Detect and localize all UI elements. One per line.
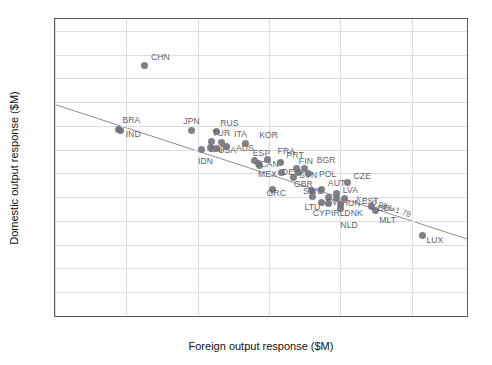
point-label-bra: BRA	[122, 115, 140, 125]
point-label-kor: KOR	[259, 130, 278, 140]
point-label-nld: NLD	[340, 220, 358, 230]
gridline-horizontal	[55, 197, 467, 198]
point-label-ind: IND	[126, 129, 141, 139]
point-label-idn: IDN	[198, 156, 213, 166]
point-label-dnk: DNK	[344, 208, 362, 218]
scatter-chart-figure: Domestic output response ($M) 0.00.20.40…	[0, 0, 492, 365]
x-tickmark	[412, 316, 413, 317]
gridline-horizontal	[55, 78, 467, 79]
data-point-jpn	[188, 127, 195, 134]
gridline-horizontal	[55, 55, 467, 56]
gridline-horizontal	[55, 221, 467, 222]
point-label-cyp: CYP	[313, 208, 331, 218]
data-point-mex	[256, 162, 263, 169]
gridline-vertical	[412, 19, 413, 316]
gridline-horizontal	[55, 292, 467, 293]
gridline-horizontal	[55, 316, 467, 317]
plot-area: 0.00.20.40.60.81.01.21.41.61.82.02.22.40…	[54, 18, 468, 317]
point-label-chn: CHN	[151, 52, 170, 62]
data-point-cyp	[318, 199, 325, 206]
point-label-bgr: BGR	[317, 155, 336, 165]
gridline-horizontal	[55, 268, 467, 269]
data-point-idn	[198, 146, 205, 153]
point-label-rus: RUS	[220, 118, 238, 128]
data-point-lux	[419, 232, 426, 239]
point-label-tur: TUR	[212, 128, 230, 138]
gridline-vertical	[340, 19, 341, 316]
point-label-jpn: JPN	[183, 116, 200, 126]
point-label-mex: MEX	[258, 169, 277, 179]
x-tickmark	[269, 316, 270, 317]
gridline-vertical	[198, 19, 199, 316]
data-point-aut	[318, 186, 325, 193]
data-point-prt	[277, 159, 284, 166]
gridline-vertical	[55, 19, 56, 316]
gridline-horizontal	[55, 245, 467, 246]
x-tickmark	[198, 316, 199, 317]
point-label-aus: AUS	[236, 143, 254, 153]
x-tickmark	[126, 316, 127, 317]
data-point-chn	[141, 62, 148, 69]
point-label-ita: ITA	[234, 129, 247, 139]
data-point-ind	[117, 127, 124, 134]
point-label-lva: LVA	[343, 185, 358, 195]
data-point-ltu	[309, 193, 316, 200]
point-label-can: CAN	[260, 159, 278, 169]
gridline-horizontal	[55, 31, 467, 32]
y-tickmark	[54, 316, 55, 317]
x-tickmark	[55, 316, 56, 317]
y-axis-title: Domestic output response ($M)	[6, 18, 22, 317]
point-label-cze: CZE	[354, 171, 372, 181]
point-label-lux: LUX	[426, 235, 443, 245]
point-label-mlt: MLT	[379, 215, 396, 225]
point-label-grc: GRC	[267, 188, 286, 198]
gridline-horizontal	[55, 102, 467, 103]
gridline-vertical	[126, 19, 127, 316]
x-axis-title: Foreign output response ($M)	[54, 340, 468, 352]
x-tickmark	[340, 316, 341, 317]
